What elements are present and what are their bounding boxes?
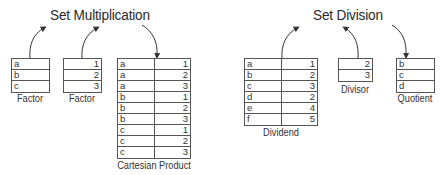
cartesian-product-label: Cartesian Product [117,160,191,171]
cell: 3 [339,70,372,81]
table-row: 2 [339,59,372,70]
cell: a [118,59,155,69]
table-row: a [12,59,49,70]
quotient-table: b c d [396,58,435,93]
cell: c [397,70,434,80]
cell: c [12,81,49,92]
cell: 2 [339,59,372,69]
cell: 3 [64,81,101,92]
set-division-title: Set Division [313,6,383,24]
cell: 4 [282,103,318,113]
table-row: b [12,70,49,81]
table-row: c2 [118,136,190,147]
table-row: c [397,70,434,81]
cell: 3 [155,147,191,158]
cell: 1 [155,125,191,135]
cell: 3 [155,81,191,91]
cell: 1 [155,59,191,69]
cell: 2 [282,92,318,102]
cell: b [118,114,155,124]
table-row: b [397,59,434,70]
cell: e [245,103,282,113]
table-row: b2 [118,103,190,114]
table-row: f5 [245,114,317,125]
cell: a [118,81,155,91]
factor-letters-label: Factor [17,93,43,104]
table-row: d [397,81,434,92]
cell: c [118,125,155,135]
cell: b [397,59,434,69]
factor-letters-table: a b c [11,58,50,93]
arrow-divisor-icon [345,28,358,58]
cell: 5 [282,114,318,125]
table-row: 2 [64,70,101,81]
arrow-factor1-icon [30,28,44,58]
cell: 2 [155,70,191,80]
cell: d [397,81,434,92]
dividend-label: Dividend [263,127,299,138]
cartesian-product-table: a1 a2 a3 b1 b2 b3 c1 c2 c3 [117,58,191,159]
set-multiplication-title: Set Multiplication [50,6,150,24]
table-row: c3 [245,81,317,92]
cell: c [245,81,282,91]
table-row: c1 [118,125,190,136]
table-row: c3 [118,147,190,158]
cell: b [245,70,282,80]
cell: 1 [282,59,318,69]
cell: f [245,114,282,125]
table-row: b2 [245,70,317,81]
table-row: d2 [245,92,317,103]
divisor-label: Divisor [341,84,369,95]
cell: 2 [155,136,191,146]
table-row: 1 [64,59,101,70]
table-row: e4 [245,103,317,114]
cell: 2 [155,103,191,113]
arrow-quotient-icon [392,25,406,56]
cell: 1 [64,59,101,69]
cell: b [12,70,49,80]
cell: 3 [282,81,318,91]
cell: c [118,136,155,146]
table-row: a1 [245,59,317,70]
cell: b [118,92,155,102]
table-row: b1 [118,92,190,103]
table-row: 3 [339,70,372,81]
arrow-dividend-icon [282,28,297,58]
cell: 3 [155,114,191,124]
cell: a [12,59,49,69]
table-row: b3 [118,114,190,125]
factor-numbers-table: 1 2 3 [63,58,102,93]
cell: b [118,103,155,113]
quotient-label: Quotient [398,93,433,104]
table-row: a2 [118,70,190,81]
arrow-product-icon [142,25,157,56]
cell: a [245,59,282,69]
arrow-factor2-icon [82,28,97,58]
factor-numbers-label: Factor [69,93,95,104]
dividend-table: a1 b2 c3 d2 e4 f5 [244,58,318,126]
cell: d [245,92,282,102]
cell: 2 [64,70,101,80]
cell: 1 [155,92,191,102]
table-row: 3 [64,81,101,92]
table-row: a3 [118,81,190,92]
cell: 2 [282,70,318,80]
divisor-table: 2 3 [338,58,373,82]
cell: a [118,70,155,80]
cell: c [118,147,155,158]
table-row: a1 [118,59,190,70]
table-row: c [12,81,49,92]
